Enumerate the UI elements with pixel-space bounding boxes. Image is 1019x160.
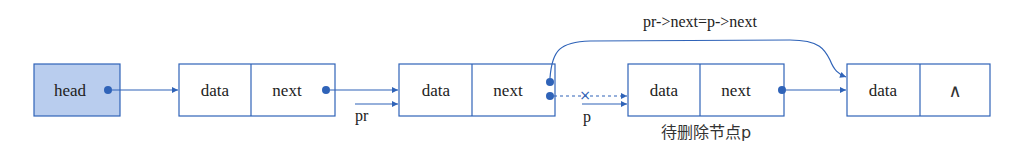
node-data: data (201, 81, 230, 100)
list-node-3-to-delete: data next (628, 64, 786, 116)
list-node-1: data next (179, 64, 335, 116)
pr-pointer-label: pr (355, 107, 369, 125)
node-next: next (493, 81, 523, 100)
node-data: data (650, 81, 679, 100)
null-pointer-symbol: ∧ (948, 80, 961, 101)
node-next: next (721, 81, 751, 100)
node-next: next (272, 81, 302, 100)
delete-node-caption: 待删除节点p (661, 123, 751, 142)
node-data: data (422, 81, 451, 100)
list-node-2: data next (399, 64, 555, 116)
p-pointer-label: p (583, 108, 591, 126)
assignment-annotation: pr->next=p->next (643, 13, 757, 31)
list-node-4-tail: data ∧ (847, 64, 990, 116)
head-pointer-box: head (34, 64, 120, 116)
head-label: head (54, 81, 87, 100)
linked-list-diagram: head data next pr data next × pr->next=p… (0, 0, 1019, 160)
node-data: data (869, 81, 898, 100)
broken-link-mark: × (579, 87, 591, 103)
